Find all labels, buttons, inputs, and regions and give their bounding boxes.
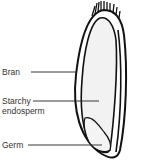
label-starchy: Starchy: [2, 97, 31, 106]
label-germ: Germ: [2, 141, 23, 150]
label-bran: Bran: [2, 68, 20, 77]
label-endosperm: endosperm: [2, 107, 45, 116]
